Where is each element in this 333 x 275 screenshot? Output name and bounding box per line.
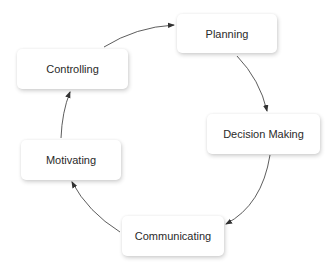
node-decision-making: Decision Making	[207, 114, 320, 154]
node-controlling: Controlling	[17, 49, 128, 89]
arrow-controlling-to-planning	[104, 25, 174, 47]
node-motivating: Motivating	[21, 140, 121, 180]
node-label: Motivating	[46, 154, 96, 166]
arrow-motivating-to-controlling	[61, 92, 70, 138]
node-label: Communicating	[135, 230, 211, 242]
arrow-planning-to-decision-making	[237, 56, 267, 111]
node-planning: Planning	[177, 14, 277, 53]
node-label: Controlling	[46, 63, 99, 75]
node-label: Decision Making	[223, 128, 304, 140]
arrow-communicating-to-motivating	[72, 182, 120, 232]
management-cycle-diagram: Planning Controlling Decision Making Mot…	[0, 0, 333, 275]
node-label: Planning	[206, 28, 249, 40]
node-communicating: Communicating	[122, 216, 224, 256]
arrow-decision-making-to-communicating	[226, 155, 270, 224]
